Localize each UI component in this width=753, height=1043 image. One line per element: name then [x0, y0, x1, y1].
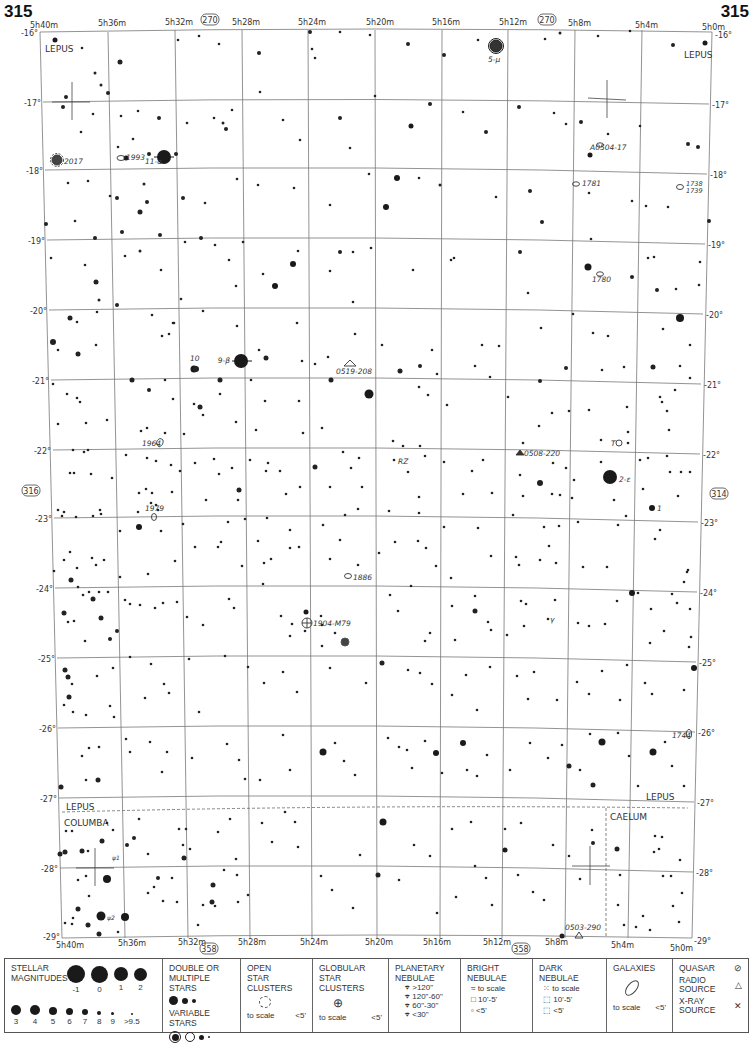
legend-bright-nebulae: BRIGHTNEBULAE ≈ to scale □ 10'-5' ▫ <5' [461, 959, 533, 1032]
svg-text:1739: 1739 [686, 187, 703, 195]
svg-text:5h20m: 5h20m [365, 938, 393, 947]
svg-text:RZ: RZ [398, 457, 409, 466]
svg-text:358: 358 [513, 945, 528, 954]
svg-text:1780: 1780 [592, 275, 611, 284]
svg-text:ψ1: ψ1 [112, 854, 120, 862]
svg-text:5h8m: 5h8m [568, 19, 591, 28]
svg-text:0503-290: 0503-290 [565, 923, 601, 932]
svg-text:0519-208: 0519-208 [336, 367, 372, 376]
svg-text:5-μ: 5-μ [488, 55, 500, 64]
svg-text:5h4m: 5h4m [635, 21, 658, 30]
radio-source-icon: △ [735, 980, 742, 990]
svg-text:5h28m: 5h28m [238, 938, 266, 947]
svg-text:γ: γ [550, 615, 555, 624]
svg-text:LEPUS: LEPUS [684, 50, 713, 60]
svg-text:5h36m: 5h36m [98, 19, 126, 28]
double-star-icons [169, 996, 234, 1005]
svg-text:1886: 1886 [353, 573, 372, 582]
svg-text:-23°: -23° [701, 519, 718, 528]
svg-text:5h4m: 5h4m [611, 941, 634, 950]
svg-text:-23°: -23° [35, 515, 52, 524]
radio-source-icon [344, 360, 356, 366]
svg-text:1979: 1979 [145, 504, 164, 513]
ra-labels-bottom: 5h40m 5h36m 5h32m 5h28m 5h24m 5h20m 5h16… [56, 938, 693, 953]
legend-planetary-nebulae: PLANETARYNEBULAE ⌖ >120" ⌖ 120"-60" ⌖ 60… [389, 959, 461, 1032]
svg-text:5h40m: 5h40m [56, 941, 84, 950]
svg-text:-24°: -24° [700, 589, 717, 598]
legend-stellar-magnitudes: STELLARMAGNITUDES -1 0 1 2 3 4 5 6 7 8 9… [5, 959, 163, 1032]
svg-text:-17°: -17° [24, 99, 41, 108]
field-stars [44, 30, 711, 939]
svg-text:5h12m: 5h12m [499, 18, 527, 27]
svg-text:5h24m: 5h24m [298, 18, 326, 27]
xray-source-icon: ✕ [734, 1001, 742, 1011]
svg-text:-28°: -28° [41, 865, 58, 874]
legend: STELLARMAGNITUDES -1 0 1 2 3 4 5 6 7 8 9… [4, 958, 749, 1033]
svg-text:1744: 1744 [672, 731, 691, 740]
svg-text:1781: 1781 [582, 179, 601, 188]
legend-open-clusters: OPENSTAR CLUSTERS to scale<5' [241, 959, 313, 1032]
svg-text:5h8m: 5h8m [545, 938, 568, 947]
svg-text:COLUMBA: COLUMBA [64, 818, 109, 828]
svg-text:LEPUS: LEPUS [45, 44, 74, 54]
svg-text:-29°: -29° [694, 937, 711, 946]
svg-text:1993: 1993 [126, 153, 145, 162]
ra-labels-top: 5h40m 5h36m 5h32m 5h28m 5h24m 5h20m 5h16… [30, 18, 725, 32]
svg-text:5h32m: 5h32m [178, 938, 206, 947]
globular-cluster-icon: ⊕ [333, 996, 382, 1010]
svg-text:314: 314 [711, 490, 726, 499]
svg-text:-21°: -21° [704, 381, 721, 390]
svg-text:270: 270 [202, 16, 217, 25]
svg-text:-19°: -19° [28, 237, 45, 246]
svg-text:5h36m: 5h36m [118, 939, 146, 948]
svg-text:-20°: -20° [706, 311, 723, 320]
quasar-icon: ⊘ [734, 963, 742, 973]
svg-text:-21°: -21° [32, 377, 49, 386]
svg-text:-19°: -19° [708, 241, 725, 250]
svg-text:LEPUS: LEPUS [66, 802, 95, 812]
svg-text:-29°: -29° [43, 933, 60, 942]
svg-text:-25°: -25° [38, 655, 55, 664]
svg-text:5h32m: 5h32m [165, 18, 193, 27]
bright-nebula-icon [52, 155, 62, 165]
svg-text:5h24m: 5h24m [300, 938, 328, 947]
svg-text:5h12m: 5h12m [483, 938, 511, 947]
svg-text:-22°: -22° [703, 451, 720, 460]
svg-text:-20°: -20° [30, 307, 47, 316]
svg-text:-16°: -16° [21, 29, 38, 38]
svg-text:9-β: 9-β [218, 356, 230, 365]
svg-text:-26°: -26° [39, 725, 56, 734]
svg-text:-26°: -26° [698, 729, 715, 738]
svg-text:ψ2: ψ2 [107, 914, 115, 922]
deep-sky-objects [51, 143, 692, 938]
svg-text:-18°: -18° [710, 171, 727, 180]
galaxy-icon [152, 514, 157, 521]
svg-text:5h16m: 5h16m [432, 18, 460, 27]
svg-text:316: 316 [23, 487, 38, 496]
svg-text:5h28m: 5h28m [232, 18, 260, 27]
star-chart: 270 270 358 358 316 314 5h40m 5h36m 5h32… [0, 0, 753, 958]
svg-text:-18°: -18° [26, 167, 43, 176]
legend-double-variable: DOUBLE ORMULTIPLE STARS VARIABLE STARS [163, 959, 241, 1032]
svg-text:1964: 1964 [142, 439, 161, 448]
svg-text:1904-M79: 1904-M79 [313, 619, 351, 628]
svg-text:270: 270 [539, 16, 554, 25]
variable-star-icon [616, 440, 622, 446]
svg-text:-27°: -27° [697, 799, 714, 808]
dec-labels-left: -16° -17° -18° -19° -20° -21° -22° -23° … [21, 29, 60, 942]
svg-text:5h0m: 5h0m [670, 944, 693, 953]
radio-source-icon [575, 932, 583, 938]
svg-text:-16°: -16° [715, 31, 732, 40]
variable-star-icons [169, 1031, 234, 1043]
svg-text:11-α: 11-α [145, 157, 162, 166]
bright-stars [53, 38, 708, 922]
svg-text:0508-220: 0508-220 [524, 449, 560, 458]
svg-text:LEPUS: LEPUS [646, 792, 675, 802]
radio-source-icon [516, 450, 524, 455]
galaxy-icon [677, 185, 684, 190]
svg-text:-22°: -22° [34, 447, 51, 456]
legend-dark-nebulae: DARKNEBULAE ⁙ to scale ⬚ 10'-5' ⬚ <5' [533, 959, 607, 1032]
svg-text:10: 10 [190, 354, 200, 363]
svg-text:-28°: -28° [696, 869, 713, 878]
object-labels: 5-μ 11-α 9-β 2-ε 10 1 T RZ γ ψ1 ψ2 2017 … [64, 55, 703, 932]
